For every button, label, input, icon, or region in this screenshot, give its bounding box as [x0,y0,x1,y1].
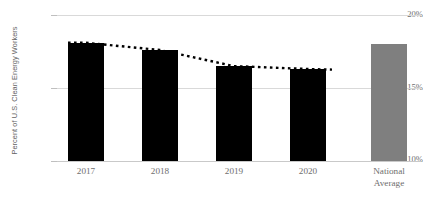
bar-national-average [371,44,407,161]
bar-2018 [142,50,178,161]
x-label-2019: 2019 [200,166,268,178]
x-label-national-average: NationalAverage [355,166,423,189]
x-label-2020: 2020 [274,166,342,178]
x-label-2018: 2018 [126,166,194,178]
x-label-line-2: Average [355,178,423,190]
plot-area [57,15,421,162]
clean-energy-workers-bar-chart: Percent of U.S. Clean Energy Workers 20%… [0,0,423,200]
axis-baseline-10-percent [57,161,421,162]
gridline-20-percent [57,15,421,16]
x-axis-labels: 2017201820192020NationalAverage [57,166,421,200]
y-axis-title: Percent of U.S. Clean Energy Workers [10,16,19,166]
bar-2020 [290,69,326,161]
bar-2019 [216,66,252,161]
bar-2017 [68,43,104,161]
x-label-line-1: National [355,166,423,178]
x-label-2017: 2017 [52,166,120,178]
